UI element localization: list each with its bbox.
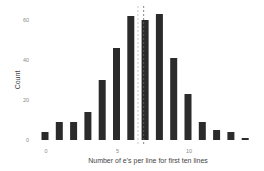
bar-6 [127,16,134,140]
x-axis-label: Number of e's per line for first ten lin… [88,157,208,165]
y-tick-label: 60 [23,17,29,23]
bar-8 [156,14,163,140]
bar-14 [242,138,249,140]
bar-5 [113,48,120,140]
y-axis-label: Count [14,71,21,90]
histogram-chart: 0204060 0510 Number of e's per line for … [0,0,264,171]
bars-group [42,14,249,140]
bar-9 [170,58,177,140]
bar-3 [84,112,91,140]
bar-1 [56,122,63,140]
y-tick-label: 40 [23,57,29,63]
bar-7 [142,20,149,140]
y-axis-ticks: 0204060 [23,17,29,143]
bar-13 [227,132,234,140]
bar-2 [70,122,77,140]
bar-0 [42,132,49,140]
bar-11 [199,122,206,140]
x-tick-label: 5 [116,148,119,154]
y-tick-label: 20 [23,97,29,103]
bar-4 [99,80,106,140]
x-tick-label: 0 [44,148,47,154]
bar-12 [213,130,220,140]
x-axis-ticks: 0510 [44,148,192,154]
y-tick-label: 0 [26,137,29,143]
bar-10 [185,94,192,140]
x-tick-label: 10 [186,148,192,154]
